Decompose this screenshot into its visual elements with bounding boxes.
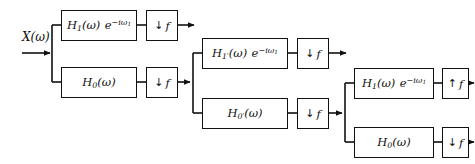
stage-1-highpass-filter-label: H1(ω) e−iω1 — [67, 18, 131, 33]
stage-3-lowpass-rate-arrow: ↓ — [448, 136, 459, 149]
stage-3-lowpass-filter-block: H0(ω) — [354, 127, 434, 158]
stage-1-lowpass-rate-factor: f — [165, 76, 169, 90]
filter-bank-diagram: X(ω) H1(ω) e−iω1 ↓f H0(ω) ↓f H1′(ω) e−iω… — [0, 0, 475, 164]
stage-3-highpass-filter-label: H1(ω) e−iω1 — [362, 76, 426, 91]
input-signal-text: X(ω) — [22, 30, 50, 44]
stage-2-highpass-filter-label: H1′(ω) e−iω1 — [212, 46, 278, 61]
input-signal-label: X(ω) — [22, 30, 50, 44]
stage-1-highpass-filter-block: H1(ω) e−iω1 — [61, 10, 137, 41]
stage-1-lowpass-filter-label: H0(ω) — [82, 75, 115, 90]
stage-2-lowpass-rate-block: ↓f — [297, 98, 329, 129]
stage-2-lowpass-filter-block: H0′(ω) — [202, 98, 288, 129]
stage-1-highpass-rate-arrow: ↓ — [154, 19, 165, 32]
stage-1-highpass-rate-factor: f — [165, 19, 169, 33]
stage-2-highpass-rate-factor: f — [316, 47, 320, 61]
stage-1-lowpass-filter-block: H0(ω) — [61, 67, 137, 98]
stage-1-lowpass-rate-block: ↓f — [146, 67, 178, 98]
stage-3-highpass-filter-block: H1(ω) e−iω1 — [354, 68, 434, 99]
stage-2-lowpass-filter-label: H0′(ω) — [227, 106, 262, 121]
stage-1-lowpass-rate-arrow: ↓ — [154, 76, 165, 89]
stage-2-highpass-rate-block: ↓f — [297, 38, 329, 69]
stage-3-lowpass-rate-block: ↓f — [442, 127, 469, 158]
stage-2-lowpass-rate-arrow: ↓ — [305, 107, 316, 120]
stage-1-highpass-rate-block: ↓f — [146, 10, 178, 41]
stage-3-highpass-rate-arrow: ↑ — [448, 77, 459, 90]
stage-3-highpass-rate-factor: f — [459, 77, 463, 91]
stage-3-highpass-rate-block: ↑f — [442, 68, 469, 99]
stage-3-lowpass-rate-factor: f — [459, 136, 463, 150]
stage-2-highpass-filter-block: H1′(ω) e−iω1 — [202, 38, 288, 69]
stage-2-lowpass-rate-factor: f — [316, 107, 320, 121]
stage-2-highpass-rate-arrow: ↓ — [305, 47, 316, 60]
stage-3-lowpass-filter-label: H0(ω) — [377, 135, 410, 150]
